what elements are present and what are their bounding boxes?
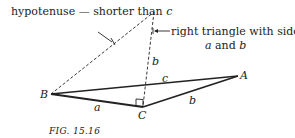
triangle-diagram: [0, 0, 295, 138]
side-label-b-bottom: b: [189, 95, 196, 106]
arrowhead-left-icon: [154, 29, 158, 33]
hypotenuse-dashed-line: [51, 12, 154, 94]
vertex-label-b: B: [40, 89, 48, 100]
figure-caption: FIG. 15.16: [49, 127, 100, 136]
side-label-b-vertical: b: [152, 56, 159, 67]
side-label-a: a: [94, 102, 101, 113]
and-text: and: [212, 39, 240, 52]
right-triangle-annotation-line1: right triangle with sides: [171, 26, 295, 37]
vertex-label-a: A: [240, 70, 248, 81]
var-b: b: [239, 39, 246, 52]
figure-15-16: hypotenuse — shorter than c right triang…: [0, 0, 295, 138]
hypotenuse-annotation-text: hypotenuse — shorter than: [11, 5, 166, 18]
hypotenuse-annotation-var: c: [166, 5, 172, 18]
vertex-label-c: C: [138, 110, 146, 121]
right-triangle-annotation-line2: a and b: [205, 40, 246, 51]
hypotenuse-annotation: hypotenuse — shorter than c: [11, 6, 172, 17]
side-label-c: c: [162, 73, 168, 84]
hypotenuse-pointer-line: [98, 32, 112, 42]
